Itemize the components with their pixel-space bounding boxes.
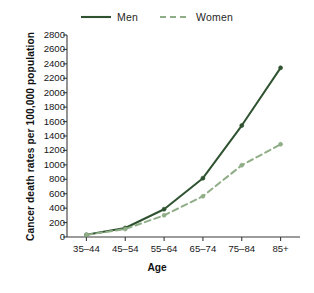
data-point-women [279,142,283,146]
x-axis-title: Age [0,262,314,273]
data-point-women [240,163,244,167]
series-line-women [86,144,280,235]
chart-figure: Men Women Cancer death rates per 100,000… [0,0,314,293]
data-point-women [162,213,166,217]
data-point-men [162,207,166,211]
data-point-women [123,227,127,231]
series-line-men [86,68,280,235]
data-point-women [201,194,205,198]
data-point-men [279,66,283,70]
x-axis-tick-labels: 35–4445–5455–6465–7475–8485+ [0,243,314,257]
data-point-women [84,233,88,237]
data-point-men [240,124,244,128]
data-point-men [201,176,205,180]
x-axis-tick-label: 85+ [256,243,306,254]
